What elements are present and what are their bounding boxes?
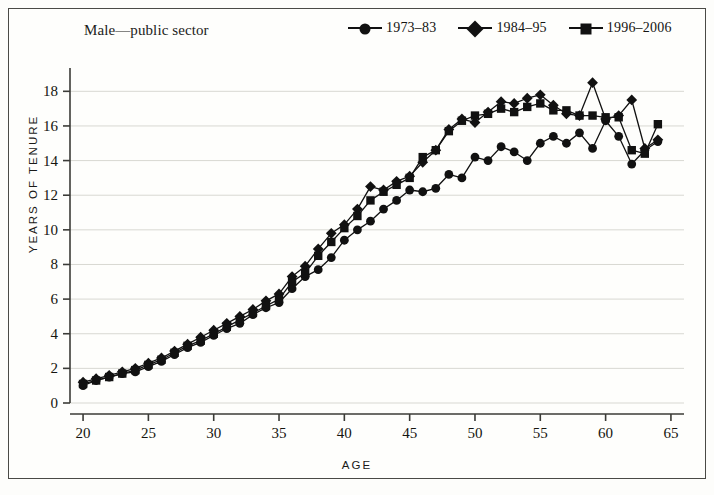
y-tick-label: 2 xyxy=(24,360,58,377)
y-tick-label: 6 xyxy=(24,291,58,308)
data-point-circle xyxy=(536,139,545,148)
y-tick-label: 14 xyxy=(24,152,58,169)
data-point-square xyxy=(588,111,596,119)
plot-svg xyxy=(0,0,714,495)
data-point-circle xyxy=(523,156,532,165)
x-tick-label: 35 xyxy=(259,425,299,442)
data-point-square xyxy=(562,106,570,114)
data-point-square xyxy=(327,238,335,246)
data-point-square xyxy=(484,110,492,118)
data-point-square xyxy=(458,117,466,125)
x-tick-label: 50 xyxy=(455,425,495,442)
data-point-square xyxy=(471,111,479,119)
data-point-square xyxy=(549,106,557,114)
series-square xyxy=(79,99,662,388)
x-tick-label: 60 xyxy=(586,425,626,442)
data-point-circle xyxy=(588,144,597,153)
data-point-diamond xyxy=(587,77,598,88)
data-point-circle xyxy=(418,187,427,196)
data-point-square xyxy=(301,269,309,277)
data-point-square xyxy=(497,104,505,112)
data-point-square xyxy=(379,188,387,196)
data-point-square xyxy=(223,323,231,331)
data-point-square xyxy=(144,361,152,369)
y-tick-label: 0 xyxy=(24,395,58,412)
data-point-circle xyxy=(575,128,584,137)
series-circle xyxy=(79,116,663,390)
y-tick-label: 4 xyxy=(24,325,58,342)
data-point-square xyxy=(510,108,518,116)
data-point-square xyxy=(641,149,649,157)
x-tick-label: 65 xyxy=(651,425,691,442)
data-point-circle xyxy=(471,153,480,162)
data-point-circle xyxy=(627,160,636,169)
data-point-circle xyxy=(405,186,414,195)
data-point-square xyxy=(432,146,440,154)
data-point-circle xyxy=(327,253,336,262)
data-point-square xyxy=(314,252,322,260)
data-point-square xyxy=(183,342,191,350)
data-point-circle xyxy=(431,184,440,193)
data-point-circle xyxy=(444,170,453,179)
y-tick-label: 8 xyxy=(24,256,58,273)
data-point-square xyxy=(196,336,204,344)
data-point-square xyxy=(118,369,126,377)
data-point-square xyxy=(392,181,400,189)
data-point-circle xyxy=(314,265,323,274)
data-point-square xyxy=(523,103,531,111)
data-point-square xyxy=(419,153,427,161)
data-point-diamond xyxy=(522,93,533,104)
plot-area-wrapper: YEARS OF TENURE AGE 024681012141618 2025… xyxy=(0,0,714,495)
data-point-circle xyxy=(549,132,558,141)
chart-figure: Male—public sector 1973–83 1984–95 1996–… xyxy=(0,0,714,495)
data-point-square xyxy=(210,330,218,338)
data-point-square xyxy=(92,376,100,384)
x-tick-label: 20 xyxy=(63,425,103,442)
data-point-square xyxy=(262,302,270,310)
data-point-diamond xyxy=(365,181,376,192)
data-point-circle xyxy=(484,156,493,165)
data-point-circle xyxy=(458,173,467,182)
data-point-square xyxy=(79,380,87,388)
data-point-square xyxy=(275,295,283,303)
data-point-diamond xyxy=(509,98,520,109)
x-tick-label: 40 xyxy=(324,425,364,442)
data-point-square xyxy=(288,278,296,286)
series-diamond xyxy=(78,77,664,387)
data-point-circle xyxy=(353,225,362,234)
y-tick-label: 16 xyxy=(24,117,58,134)
data-point-circle xyxy=(497,142,506,151)
series-line xyxy=(83,83,658,383)
data-point-circle xyxy=(379,205,388,214)
y-tick-label: 10 xyxy=(24,221,58,238)
series-line xyxy=(83,103,658,384)
data-point-circle xyxy=(392,196,401,205)
data-point-circle xyxy=(562,139,571,148)
data-point-circle xyxy=(510,148,519,157)
y-tick-label: 18 xyxy=(24,83,58,100)
data-point-square xyxy=(628,146,636,154)
data-point-square xyxy=(157,356,165,364)
x-tick-label: 25 xyxy=(128,425,168,442)
data-point-square xyxy=(601,113,609,121)
data-point-square xyxy=(654,120,662,128)
data-point-circle xyxy=(366,217,375,226)
data-point-square xyxy=(105,373,113,381)
data-point-square xyxy=(536,99,544,107)
data-point-square xyxy=(445,127,453,135)
data-point-square xyxy=(405,174,413,182)
data-point-square xyxy=(170,349,178,357)
data-point-square xyxy=(353,212,361,220)
data-point-square xyxy=(131,366,139,374)
y-tick-label: 12 xyxy=(24,187,58,204)
data-point-circle xyxy=(614,132,623,141)
x-tick-label: 45 xyxy=(390,425,430,442)
data-point-square xyxy=(614,113,622,121)
data-point-square xyxy=(340,224,348,232)
x-tick-label: 55 xyxy=(520,425,560,442)
x-tick-label: 30 xyxy=(194,425,234,442)
data-point-square xyxy=(236,316,244,324)
x-axis-title: AGE xyxy=(0,459,714,471)
data-point-circle xyxy=(340,236,349,245)
data-point-square xyxy=(249,309,257,317)
